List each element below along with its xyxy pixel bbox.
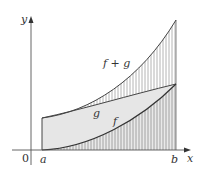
y-axis-arrow-icon: [29, 16, 34, 23]
b-label: b: [171, 153, 178, 166]
a-label: a: [40, 153, 47, 166]
x-axis-label: x: [187, 152, 194, 165]
f-plus-g-label: f + g: [102, 57, 130, 70]
origin-label: 0: [22, 152, 29, 165]
g-label: g: [93, 107, 100, 120]
y-axis-label: y: [20, 13, 28, 26]
sum-of-functions-diagram: y x 0 a b f + g g f: [0, 0, 201, 179]
